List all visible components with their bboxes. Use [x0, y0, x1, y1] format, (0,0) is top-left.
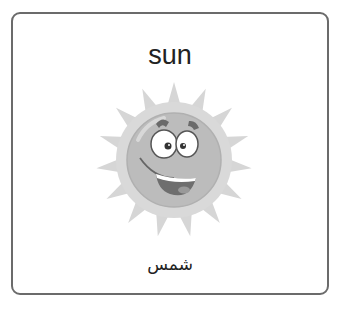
english-word: sun	[13, 42, 327, 69]
arabic-word: شمس	[13, 256, 327, 273]
flashcard: sun	[11, 12, 329, 295]
smiling-sun-icon	[94, 80, 254, 240]
